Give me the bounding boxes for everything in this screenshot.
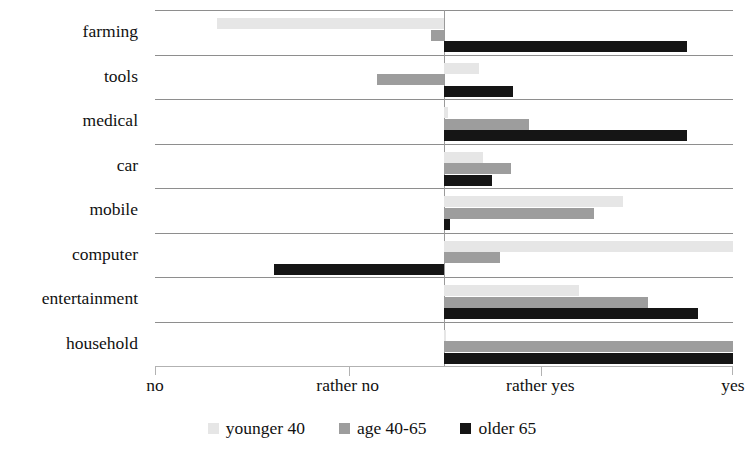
legend-item-age-40-65[interactable]: age 40-65 xyxy=(339,420,427,438)
bar-computer-older-65 xyxy=(274,264,444,275)
bar-farming-age-40-65 xyxy=(431,30,444,41)
category-label-medical: medical xyxy=(83,112,138,130)
x-tick-label-rather-no: rather no xyxy=(316,377,379,395)
bar-mobile-older-65 xyxy=(444,219,450,230)
bar-tools-younger-40 xyxy=(444,63,479,74)
legend-swatch-icon xyxy=(460,423,471,434)
bar-tools-age-40-65 xyxy=(377,74,444,85)
category-label-tools: tools xyxy=(104,68,138,86)
bar-computer-age-40-65 xyxy=(444,252,500,263)
category-label-car: car xyxy=(117,157,138,175)
legend-swatch-icon xyxy=(339,423,350,434)
category-label-entertainment: entertainment xyxy=(42,290,138,308)
legend-swatch-icon xyxy=(208,423,219,434)
bar-farming-younger-40 xyxy=(217,18,444,29)
bar-household-older-65 xyxy=(444,353,733,364)
bar-computer-younger-40 xyxy=(444,241,733,252)
bar-household-age-40-65 xyxy=(444,341,733,352)
bar-tools-older-65 xyxy=(444,86,513,97)
value-axis xyxy=(155,366,733,375)
legend-label: older 65 xyxy=(478,420,536,438)
x-tick-label-rather-yes: rather yes xyxy=(506,377,575,395)
bar-car-age-40-65 xyxy=(444,163,511,174)
bar-farming-older-65 xyxy=(444,41,687,52)
legend: younger 40age 40-65older 65 xyxy=(0,420,744,438)
bar-mobile-age-40-65 xyxy=(444,208,594,219)
bar-car-older-65 xyxy=(444,175,492,186)
legend-item-younger-40[interactable]: younger 40 xyxy=(208,420,305,438)
x-tick-label-yes: yes xyxy=(721,377,744,395)
bar-car-younger-40 xyxy=(444,152,483,163)
plot-area xyxy=(155,10,733,366)
bar-mobile-younger-40 xyxy=(444,196,623,207)
bar-medical-age-40-65 xyxy=(444,119,529,130)
category-label-mobile: mobile xyxy=(89,201,138,219)
category-label-farming: farming xyxy=(83,23,138,41)
category-axis: farmingtoolsmedicalcarmobilecomputerente… xyxy=(0,10,148,366)
bar-entertainment-age-40-65 xyxy=(444,297,648,308)
legend-label: age 40-65 xyxy=(357,420,427,438)
x-tick-label-no: no xyxy=(146,377,164,395)
bar-entertainment-older-65 xyxy=(444,308,698,319)
legend-label: younger 40 xyxy=(226,420,305,438)
bar-medical-older-65 xyxy=(444,130,687,141)
bar-household-younger-40 xyxy=(444,330,446,341)
bar-entertainment-younger-40 xyxy=(444,285,579,296)
category-label-computer: computer xyxy=(72,246,138,264)
legend-item-older-65[interactable]: older 65 xyxy=(460,420,536,438)
category-label-household: household xyxy=(66,335,138,353)
bar-medical-younger-40 xyxy=(444,107,448,118)
